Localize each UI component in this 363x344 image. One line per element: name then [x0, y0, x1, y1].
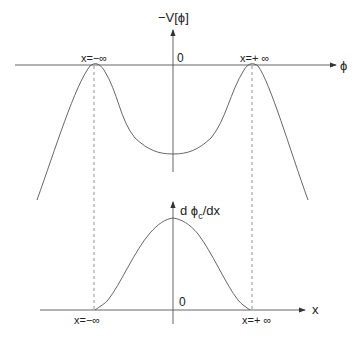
- derivative-curve: [95, 218, 250, 310]
- x-axis-label: x: [312, 302, 319, 317]
- y-axis-label-derivative: d ϕc/dx: [180, 203, 220, 221]
- right-end-label: x=+ ∞: [242, 314, 271, 326]
- origin-label-top: 0: [177, 51, 184, 65]
- phi-axis-label: ϕ: [340, 58, 347, 73]
- left-peak-label: x=−∞: [81, 52, 107, 64]
- y-axis-label-potential: −V[ϕ]: [158, 10, 189, 25]
- left-end-label: x=−∞: [74, 314, 100, 326]
- potential-diagram: −V[ϕ] ϕ 0 x=−∞ x=+ ∞ d ϕc/dx x 0 x=−∞ x=…: [0, 0, 363, 344]
- top-panel: −V[ϕ] ϕ 0 x=−∞ x=+ ∞: [15, 10, 347, 200]
- bottom-panel: d ϕc/dx x 0 x=−∞ x=+ ∞: [40, 202, 319, 326]
- potential-curve: [37, 64, 308, 200]
- origin-label-bottom: 0: [179, 295, 186, 309]
- right-peak-label: x=+ ∞: [240, 52, 269, 64]
